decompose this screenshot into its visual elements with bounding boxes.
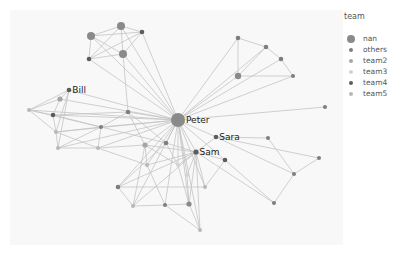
node-team5[interactable] [145,163,149,167]
legend-label: others [363,45,387,54]
node-others[interactable] [164,141,169,146]
legend-items: nanothersteam2team3team4team5 [344,33,408,99]
network-plot: PeterBillSaraSam [0,0,344,254]
legend-marker-icon [344,92,358,96]
node-others[interactable] [116,185,121,190]
node-team3[interactable] [185,173,189,177]
node-others[interactable] [292,172,296,176]
node-others[interactable] [236,36,241,41]
node-nan[interactable] [119,50,127,58]
node-team4[interactable] [140,30,145,35]
node-team5[interactable] [54,130,58,134]
node-team5[interactable] [203,185,207,189]
legend-item-nan[interactable]: nan [344,33,408,44]
node-team2[interactable] [142,142,147,147]
node-team5[interactable] [198,228,202,232]
node-team4[interactable] [67,88,72,93]
node-label: Sam [200,147,220,157]
node-label: Peter [186,115,210,125]
legend-label: team4 [363,78,387,87]
node-others[interactable] [323,105,327,109]
legend-item-team2[interactable]: team2 [344,55,408,66]
legend-label: team5 [363,89,387,98]
node-team4[interactable] [214,135,219,140]
node-others[interactable] [266,136,270,140]
legend: team nanothersteam2team3team4team5 [344,12,408,99]
legend-item-team5[interactable]: team5 [344,88,408,99]
legend-item-team3[interactable]: team3 [344,66,408,77]
node-others[interactable] [317,156,321,160]
legend-label: team3 [363,67,387,76]
node-others[interactable] [279,57,284,62]
node-team4[interactable] [87,57,92,62]
node-team5[interactable] [27,108,31,112]
node-label: Bill [72,85,86,95]
node-nan[interactable] [171,113,185,127]
legend-item-others[interactable]: others [344,44,408,55]
node-team3[interactable] [176,163,180,167]
node-team5[interactable] [56,146,60,150]
legend-marker-icon [344,35,358,43]
legend-marker-icon [344,48,358,52]
node-team4[interactable] [193,149,198,154]
legend-marker-icon [344,70,358,74]
legend-title: team [344,12,408,21]
node-others[interactable] [163,203,167,207]
node-nan[interactable] [235,73,241,79]
node-team5[interactable] [131,204,135,208]
node-team4[interactable] [51,113,56,118]
node-team5[interactable] [96,146,100,150]
legend-label: nan [363,34,377,43]
node-nan[interactable] [186,201,191,206]
node-others[interactable] [126,110,131,115]
node-others[interactable] [272,201,276,205]
legend-label: team2 [363,56,387,65]
node-nan[interactable] [87,32,95,40]
legend-marker-icon [344,59,358,63]
node-label: Sara [219,132,239,142]
legend-marker-icon [344,81,358,85]
node-nan[interactable] [117,22,125,30]
node-team2[interactable] [57,96,62,101]
node-others[interactable] [99,125,103,129]
node-team4[interactable] [223,158,228,163]
node-others[interactable] [291,74,295,78]
legend-item-team4[interactable]: team4 [344,77,408,88]
node-others[interactable] [264,45,269,50]
